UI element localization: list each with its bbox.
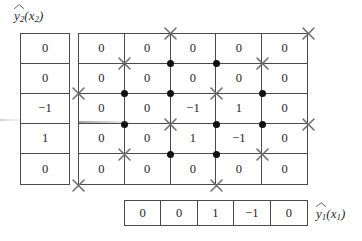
- grid-cell[interactable]: 0: [79, 64, 125, 93]
- grid-cell[interactable]: 0: [125, 34, 171, 63]
- grid-cell[interactable]: 0: [262, 34, 307, 63]
- y1-label-sub: 1: [322, 212, 327, 222]
- y1-hat-group: y1: [316, 206, 326, 222]
- grid-cell[interactable]: 0: [79, 154, 125, 184]
- y2-axis-label: y2 (x2): [14, 8, 43, 24]
- grid-cell[interactable]: 0: [125, 154, 171, 184]
- list-item[interactable]: −1: [234, 201, 270, 225]
- table-row: 0 0 1 −1 0: [79, 124, 307, 154]
- y2-label-sub: 2: [20, 14, 25, 24]
- list-item[interactable]: 0: [271, 201, 307, 225]
- main-lattice-grid: 0 0 0 0 0 0 0 0 0 0 0 0 −1 1 0 0: [78, 33, 308, 185]
- grid-cell[interactable]: 0: [125, 124, 171, 153]
- grid-cell[interactable]: 0: [125, 94, 171, 123]
- grid-cell-table: 0 0 0 0 0 0 0 0 0 0 0 0 −1 1 0 0: [78, 33, 308, 185]
- table-row: 0 0 −1 1 0: [79, 94, 307, 124]
- list-item[interactable]: 0: [161, 201, 197, 225]
- y2-paren-close: ): [39, 8, 43, 23]
- list-item[interactable]: 1: [21, 124, 69, 154]
- grid-cell[interactable]: 0: [79, 124, 125, 153]
- grid-cell[interactable]: 0: [216, 64, 262, 93]
- list-item[interactable]: 0: [21, 64, 69, 94]
- grid-cell[interactable]: 0: [216, 154, 262, 184]
- y1-axis-label: y1 (x1): [316, 206, 345, 222]
- y1-value-row: 0 0 1 −1 0: [124, 200, 308, 226]
- table-row: 0 0 0 0 0: [79, 34, 307, 64]
- list-item[interactable]: 0: [125, 201, 161, 225]
- y2-value-column: 0 0 −1 1 0: [20, 33, 70, 185]
- figure-canvas: y2 (x2) 0 0 −1 1 0 0 0 0 0 0 0 0 0 0 0: [0, 0, 362, 241]
- grid-cell[interactable]: 0: [171, 154, 217, 184]
- table-row: 0 0 0 0 0: [79, 64, 307, 94]
- list-item[interactable]: 0: [21, 154, 69, 184]
- grid-cell[interactable]: 0: [79, 34, 125, 63]
- grid-cell[interactable]: 0: [171, 64, 217, 93]
- grid-cell[interactable]: 0: [262, 94, 307, 123]
- y2-hat-group: y2: [14, 8, 24, 24]
- grid-cell[interactable]: 0: [125, 64, 171, 93]
- grid-cell[interactable]: 0: [262, 64, 307, 93]
- grid-cell[interactable]: 0: [216, 34, 262, 63]
- grid-cell[interactable]: −1: [216, 124, 262, 153]
- y1-paren-close: ): [341, 206, 345, 221]
- grid-cell[interactable]: −1: [171, 94, 217, 123]
- list-item[interactable]: −1: [21, 94, 69, 124]
- list-item[interactable]: 0: [21, 34, 69, 64]
- grid-cell[interactable]: 1: [216, 94, 262, 123]
- list-item[interactable]: 1: [198, 201, 234, 225]
- grid-cell[interactable]: 1: [171, 124, 217, 153]
- grid-cell[interactable]: 0: [262, 154, 307, 184]
- grid-cell[interactable]: 0: [79, 94, 125, 123]
- table-row: 0 0 0 0 0: [79, 154, 307, 184]
- scan-artifact: [0, 119, 22, 121]
- grid-cell[interactable]: 0: [171, 34, 217, 63]
- grid-cell[interactable]: 0: [262, 124, 307, 153]
